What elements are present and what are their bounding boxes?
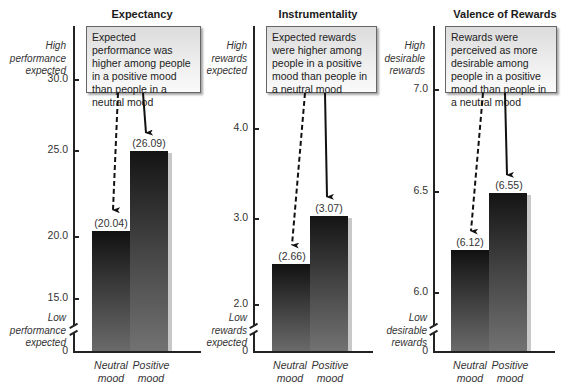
solid-arrow-positive	[505, 93, 507, 175]
solid-arrow-positive	[325, 93, 327, 197]
solid-arrow-positive	[143, 93, 146, 133]
dashed-arrow-neutral	[113, 93, 118, 210]
dashed-arrow-neutral	[292, 93, 305, 245]
annotation-arrows	[0, 0, 576, 391]
dashed-arrow-neutral	[471, 93, 483, 231]
